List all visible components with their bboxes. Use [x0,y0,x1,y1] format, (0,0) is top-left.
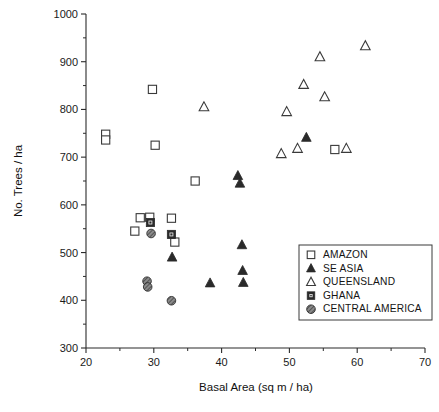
x-tick-label: 20 [80,356,92,368]
legend[interactable]: AMAZONSE ASIAQUEENSLANDGHANACENTRAL AMER… [299,245,432,320]
x-tick-label: 70 [419,356,431,368]
data-point [237,240,247,249]
data-point [147,229,156,238]
x-axis-ticks: 203040506070 [80,348,431,368]
data-point [276,149,286,158]
data-point [293,143,303,152]
y-tick-label: 800 [60,103,78,115]
data-point [191,177,199,185]
legend-marker-hatched-circle [307,305,316,314]
x-tick-label: 50 [283,356,295,368]
legend-label: SE ASIA [323,263,363,274]
y-axis-ticks: 3004005006007008009001000 [54,8,86,354]
data-point [238,277,248,286]
data-point [131,227,139,235]
data-point [238,265,248,274]
data-point [282,107,292,116]
data-point [315,52,325,61]
legend-marker-filled-square [307,292,315,300]
data-point [320,92,330,101]
data-point [167,296,176,305]
y-axis-title: No. Trees / ha [12,144,24,217]
data-point [342,143,352,152]
data-point [233,171,243,180]
y-tick-label: 700 [60,151,78,163]
data-point [146,218,154,226]
data-point [143,283,152,292]
y-tick-label: 1000 [54,8,78,20]
x-axis-title: Basal Area (sq m / ha) [199,381,313,393]
y-tick-label: 600 [60,199,78,211]
x-tick-label: 30 [148,356,160,368]
x-tick-label: 60 [351,356,363,368]
data-point [331,145,339,153]
data-point [205,278,215,287]
data-point [171,238,179,246]
data-point [361,41,371,50]
y-tick-label: 500 [60,247,78,259]
x-tick-label: 40 [215,356,227,368]
scatter-plot-figure: 3004005006007008009001000 203040506070 B… [0,0,439,412]
chart-canvas: 3004005006007008009001000 203040506070 B… [0,0,439,412]
legend-label: GHANA [323,290,360,301]
data-point [148,85,156,93]
legend-label: AMAZON [323,249,368,260]
data-point [151,141,159,149]
y-tick-label: 900 [60,56,78,68]
y-tick-label: 400 [60,294,78,306]
data-point [102,136,110,144]
y-tick-label: 300 [60,342,78,354]
series-amazon [102,85,339,246]
data-point [199,102,209,111]
data-point [167,214,175,222]
legend-label: CENTRAL AMERICA [323,303,422,314]
series-queensland [199,41,370,158]
data-point [136,214,144,222]
series-se-asia [167,132,311,287]
data-point [167,230,175,238]
data-point [299,79,309,88]
legend-label: QUEENSLAND [323,276,395,287]
data-point [167,252,177,261]
legend-marker-open-square [307,251,315,259]
data-point [302,132,312,141]
